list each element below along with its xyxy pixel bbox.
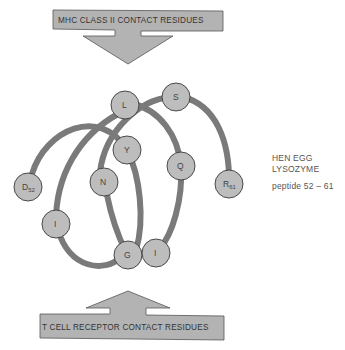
peptide-diagram: MHC CLASS II CONTACT RESIDUES T CELL REC… [0, 0, 345, 350]
svg-text:I: I [54, 219, 56, 229]
residue-l: L [111, 91, 139, 119]
peptide-backbone [32, 97, 229, 266]
tcr-contact-label: T CELL RECEPTOR CONTACT RESIDUES [42, 323, 209, 332]
mhc-contact-arrow: MHC CLASS II CONTACT RESIDUES [53, 10, 223, 64]
residue-r61: R61 [215, 170, 243, 198]
residue-y: Y [113, 136, 141, 164]
tcr-contact-arrow: T CELL RECEPTOR CONTACT RESIDUES [40, 291, 224, 340]
svg-text:Y: Y [124, 145, 130, 155]
residue-q: Q [167, 152, 195, 180]
residue-d52: D52 [14, 173, 42, 201]
protein-name-line2: LYSOZYME [272, 164, 319, 175]
residue-i-left: I [42, 210, 70, 238]
residue-i-right: I [142, 239, 170, 267]
residue-g: G [114, 241, 142, 269]
svg-text:Q: Q [177, 161, 184, 171]
peptide-range: peptide 52 – 61 [272, 181, 334, 192]
svg-text:S: S [173, 92, 179, 102]
residue-s: S [162, 83, 190, 111]
svg-text:N: N [100, 177, 106, 187]
residue-n: N [90, 168, 118, 196]
svg-text:I: I [154, 248, 156, 258]
protein-name-line1: HEN EGG [272, 153, 313, 164]
mhc-contact-label: MHC CLASS II CONTACT RESIDUES [58, 16, 204, 25]
svg-text:G: G [124, 250, 131, 260]
svg-text:L: L [122, 100, 127, 110]
